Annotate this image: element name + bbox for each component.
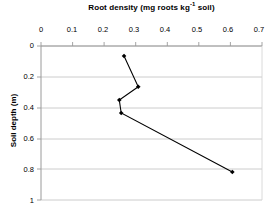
gridlines [41, 46, 262, 200]
axis-lines [41, 46, 262, 200]
data-series-line [119, 56, 232, 172]
data-point-marker [122, 54, 127, 59]
chart-figure: Root density (mg roots kg-1 soil) Soil d… [0, 0, 277, 211]
y-axis-ticks [37, 46, 41, 200]
plot-area [0, 0, 277, 211]
data-point-marker [230, 170, 235, 175]
x-axis-ticks [41, 42, 262, 46]
data-markers [117, 54, 235, 175]
data-point-marker [119, 111, 124, 116]
